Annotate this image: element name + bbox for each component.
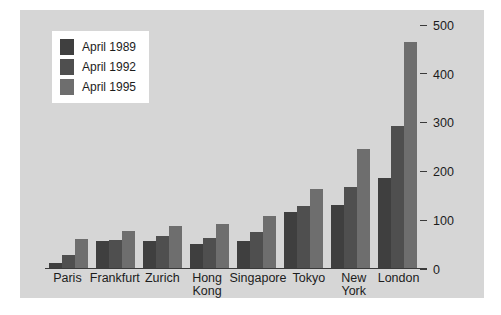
x-axis-category-label: Paris: [45, 272, 90, 298]
x-axis-baseline: [45, 268, 427, 269]
x-axis-category-label: Singapore: [230, 272, 287, 298]
legend-item-label: April 1992: [82, 61, 136, 73]
y-tick-mark-icon: [420, 220, 427, 221]
bar: [250, 232, 263, 268]
x-axis-category-label-line: New: [341, 271, 366, 285]
y-tick-mark-icon: [420, 73, 427, 74]
bar: [75, 239, 88, 268]
y-tick-mark-icon: [420, 25, 427, 26]
legend-swatch-icon: [60, 39, 74, 55]
x-axis-category-label: HongKong: [185, 272, 230, 298]
bar-group: [186, 25, 233, 268]
legend-item: April 1989: [60, 38, 136, 56]
legend-item: April 1995: [60, 78, 136, 96]
x-axis-category-label-line: Tokyo: [293, 271, 326, 285]
bar: [156, 236, 169, 268]
legend-swatch-icon: [60, 79, 74, 95]
legend-item: April 1992: [60, 58, 136, 76]
bar: [109, 240, 122, 268]
x-axis-category-label-line: Paris: [53, 271, 81, 285]
bar: [96, 241, 109, 268]
x-axis-category-label-line: Singapore: [230, 271, 287, 285]
chart-figure: 0100200300400500 ParisFrankfurtZurichHon…: [0, 0, 501, 315]
legend-item-label: April 1995: [82, 81, 136, 93]
bar: [237, 241, 250, 268]
bar: [284, 212, 297, 268]
x-axis-category-label: Frankfurt: [90, 272, 140, 298]
bar-group: [233, 25, 280, 268]
y-axis-tick-label: 400: [433, 68, 454, 81]
x-axis-category-label-line: Kong: [185, 285, 230, 298]
x-axis-category-label-line: London: [378, 271, 420, 285]
x-axis-category-label: Tokyo: [287, 272, 332, 298]
y-axis-tick-label: 200: [433, 166, 454, 179]
y-tick-mark-icon: [420, 122, 427, 123]
x-axis-labels: ParisFrankfurtZurichHongKongSingaporeTok…: [45, 272, 421, 298]
y-axis-tick-label: 500: [433, 19, 454, 32]
y-tick-mark-icon: [420, 171, 427, 172]
x-axis-category-label: NewYork: [331, 272, 376, 298]
chart-legend: April 1989April 1992April 1995: [52, 31, 149, 103]
bar: [310, 189, 323, 268]
bar: [169, 226, 182, 268]
bar: [122, 231, 135, 268]
y-tick-mark-icon: [420, 269, 427, 270]
y-axis: 0100200300400500: [420, 25, 476, 269]
y-axis-tick-label: 300: [433, 117, 454, 130]
x-axis-category-label: London: [376, 272, 421, 298]
legend-swatch-icon: [60, 59, 74, 75]
x-axis-category-label-line: Frankfurt: [90, 271, 140, 285]
x-axis-category-label-line: York: [331, 285, 376, 298]
bar: [203, 238, 216, 268]
bar: [143, 241, 156, 268]
legend-item-label: April 1989: [82, 41, 136, 53]
y-axis-tick-label: 0: [433, 263, 440, 276]
y-axis-tick-label: 100: [433, 214, 454, 227]
bar: [344, 187, 357, 268]
bar: [297, 206, 310, 268]
bar: [404, 42, 417, 268]
bar: [357, 149, 370, 268]
bar: [263, 216, 276, 268]
bar-group: [327, 25, 374, 268]
bar-group: [374, 25, 421, 268]
x-axis-category-label-line: Zurich: [145, 271, 180, 285]
bar: [391, 126, 404, 268]
bar-group: [280, 25, 327, 268]
x-axis-category-label: Zurich: [140, 272, 185, 298]
bar: [190, 244, 203, 268]
bar: [62, 255, 75, 268]
bar: [331, 205, 344, 268]
chart-plot-panel: 0100200300400500 ParisFrankfurtZurichHon…: [20, 10, 484, 298]
x-axis-category-label-line: Hong: [192, 271, 222, 285]
bar: [216, 224, 229, 268]
bar: [378, 178, 391, 268]
